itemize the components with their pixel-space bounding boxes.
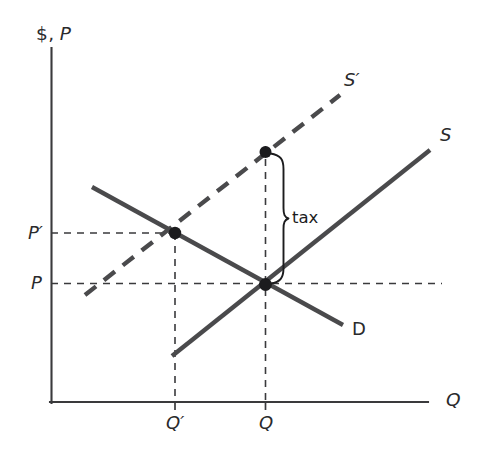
curve-label-supply-shifted: S′	[344, 71, 360, 89]
y-tick-label-p-prime: P′	[28, 224, 43, 242]
tax-annotation-label: tax	[292, 210, 318, 227]
point-tax-wedge-top	[260, 146, 272, 158]
curve-supply-shifted	[85, 95, 340, 295]
curve-label-demand: D	[352, 320, 366, 338]
point-original-equilibrium	[259, 278, 272, 291]
figure-canvas	[0, 0, 490, 450]
x-tick-label-q: Q	[259, 414, 273, 432]
point-new-equilibrium	[169, 227, 181, 239]
supply-demand-tax-figure: $,P Q P′ P Q′ Q S′ S D tax	[0, 0, 490, 450]
y-axis-label: $,P	[36, 25, 72, 44]
y-axis-label-currency: $,	[36, 23, 55, 44]
y-tick-label-p: P	[31, 274, 42, 292]
x-tick-label-q-prime: Q′	[166, 414, 184, 432]
x-axis-label: Q	[446, 391, 461, 410]
y-axis-label-price: P	[60, 23, 72, 44]
curve-label-supply: S	[440, 126, 451, 144]
